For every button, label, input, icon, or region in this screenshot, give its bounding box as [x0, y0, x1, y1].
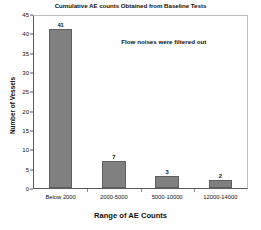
- y-tick-label: 40: [22, 31, 29, 37]
- x-tick-mark: [87, 189, 88, 192]
- x-tick-label: 12000-14000: [203, 194, 237, 200]
- y-tick-mark: [30, 111, 33, 112]
- bar-chart: Cumulative AE counts Obtained from Basel…: [0, 0, 261, 230]
- x-tick-label: Below 2000: [45, 194, 75, 200]
- x-tick-mark: [194, 189, 195, 192]
- y-tick-mark: [30, 169, 33, 170]
- bar-slot: 41: [49, 15, 72, 188]
- y-tick-mark: [30, 150, 33, 151]
- y-axis-title: Number of Vessels: [9, 46, 16, 166]
- x-tick-label: 2000-5000: [100, 194, 128, 200]
- y-axis: 051015202530354045: [0, 15, 33, 189]
- chart-annotation: Flow noises were filtered out: [121, 38, 206, 45]
- bar[interactable]: [155, 176, 178, 188]
- y-tick-mark: [30, 34, 33, 35]
- y-tick-label: 5: [26, 167, 29, 173]
- y-tick-mark: [30, 92, 33, 93]
- y-tick-label: 30: [22, 70, 29, 76]
- x-tick-label: 5000-10000: [152, 194, 183, 200]
- x-axis-title: Range of AE Counts: [0, 211, 261, 220]
- y-tick-mark: [30, 131, 33, 132]
- bar[interactable]: [209, 180, 232, 188]
- y-tick-label: 45: [22, 12, 29, 18]
- y-tick-label: 35: [22, 51, 29, 57]
- y-tick-label: 25: [22, 89, 29, 95]
- bar[interactable]: [102, 161, 125, 188]
- y-tick-label: 20: [22, 109, 29, 115]
- x-tick-mark: [141, 189, 142, 192]
- y-tick-mark: [30, 15, 33, 16]
- bar[interactable]: [49, 29, 72, 188]
- x-axis: Below 20002000-50005000-1000012000-14000: [34, 194, 247, 206]
- y-tick-mark: [30, 53, 33, 54]
- y-tick-label: 0: [26, 186, 29, 192]
- chart-title: Cumulative AE counts Obtained from Basel…: [0, 2, 261, 9]
- y-tick-mark: [30, 73, 33, 74]
- bar-value-label: 7: [102, 154, 125, 160]
- y-tick-label: 10: [22, 147, 29, 153]
- bar-slot: 2: [209, 15, 232, 188]
- y-tick-mark: [30, 189, 33, 190]
- bar-value-label: 2: [209, 173, 232, 179]
- bar-value-label: 41: [49, 22, 72, 28]
- bar-value-label: 3: [155, 169, 178, 175]
- y-tick-label: 15: [22, 128, 29, 134]
